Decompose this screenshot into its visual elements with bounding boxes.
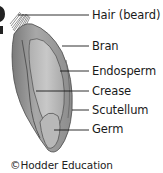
label-bran: Bran: [92, 40, 119, 52]
cropped-glyph: [0, 6, 5, 34]
label-germ: Germ: [92, 123, 123, 135]
label-hair-beard: Hair (beard): [92, 9, 160, 21]
label-scutellum: Scutellum: [92, 104, 148, 116]
wheat-grain-diagram: Hair (beard) Bran Endosperm Crease Scute…: [0, 0, 163, 173]
copyright-credit: ©Hodder Education: [10, 159, 113, 171]
wheat-grain-illustration: [0, 0, 163, 173]
label-crease: Crease: [92, 85, 131, 97]
label-endosperm: Endosperm: [92, 65, 156, 77]
